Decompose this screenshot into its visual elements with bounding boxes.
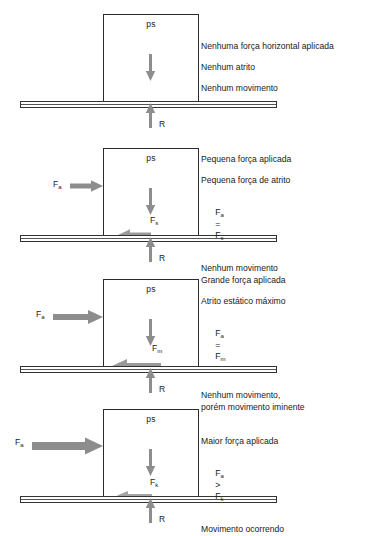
force-equation: Fa = Fm [201, 317, 373, 374]
equation-operator: = [215, 219, 220, 229]
equation-left-symbol: F [215, 468, 220, 478]
equation-left-symbol: F [215, 207, 220, 217]
force-equation: Fa > Fk [201, 457, 373, 514]
note-line: Movimento ocorrendo [201, 524, 373, 535]
equation-left-subscript: a [221, 333, 224, 339]
friction-force-label: Fk [150, 477, 158, 487]
friction-force-label: Fm [152, 343, 162, 353]
equation-right-symbol: F [215, 491, 220, 501]
friction-force-subscript: k [155, 482, 158, 488]
friction-panel-max-static: ps Fa Fm R Grande força aplicada Atrito … [0, 265, 374, 399]
block-label: ps [104, 284, 198, 294]
normal-force-arrow [144, 103, 157, 129]
equation-right-subscript: k [221, 496, 224, 502]
note-line: Atrito estático máximo [201, 296, 373, 307]
normal-force-arrow [144, 237, 157, 263]
block-label: ps [104, 19, 198, 29]
friction-force-subscript: m [157, 348, 162, 354]
friction-force-subscript: s [155, 220, 158, 226]
notes-column: Pequena força aplicada Pequena força de … [201, 154, 373, 274]
equation-right-subscript: m [221, 356, 226, 362]
applied-force-subscript: a [41, 314, 44, 320]
weight-arrow [144, 188, 157, 216]
note-line: Grande força aplicada [201, 275, 373, 286]
notes-column: Maior força aplicada Fa > Fk Movimento o… [201, 436, 373, 535]
applied-force-arrow [70, 179, 104, 193]
applied-force-arrow [53, 309, 104, 325]
weight-arrow [144, 54, 157, 82]
equation-operator: > [215, 480, 220, 490]
note-line: Nenhum atrito [201, 62, 373, 73]
applied-force-arrow [32, 436, 104, 456]
equation-right-symbol: F [215, 230, 220, 240]
normal-force-label: R [159, 253, 165, 263]
friction-panel-small-force: ps Fa Fs R Pequena força aplicada Pequen… [0, 134, 374, 268]
friction-panel-no-force: ps R Nenhuma força horizontal aplicada N… [0, 0, 374, 134]
normal-force-label: R [159, 384, 165, 394]
normal-force-arrow [144, 498, 157, 524]
note-line: Pequena força aplicada [201, 154, 373, 165]
equation-left-subscript: a [221, 212, 224, 218]
equation-right-symbol: F [215, 351, 220, 361]
block-label: ps [104, 414, 198, 424]
equation-left-symbol: F [215, 328, 220, 338]
force-equation: Fa = Fs [201, 196, 373, 253]
equation-right-subscript: s [221, 235, 224, 241]
notes-column: Nenhuma força horizontal aplicada Nenhum… [201, 41, 373, 94]
weight-arrow [144, 449, 157, 477]
applied-force-subscript: a [20, 442, 23, 448]
applied-force-label: Fa [53, 179, 62, 189]
note-line: Nenhum movimento [201, 83, 373, 94]
equation-left-subscript: a [221, 473, 224, 479]
equation-operator: = [215, 340, 220, 350]
note-line: Pequena força de atrito [201, 175, 373, 186]
block-label: ps [104, 153, 198, 163]
friction-panel-motion: ps Fa Fk R Maior força aplicada Fa > [0, 395, 374, 529]
note-line: Nenhuma força horizontal aplicada [201, 41, 373, 52]
notes-column: Grande força aplicada Atrito estático má… [201, 275, 373, 413]
applied-force-label: Fa [36, 309, 45, 319]
note-line: Maior força aplicada [201, 436, 373, 447]
normal-force-label: R [159, 119, 165, 129]
normal-force-label: R [159, 514, 165, 524]
friction-force-label: Fs [150, 215, 158, 225]
applied-force-subscript: a [58, 184, 61, 190]
normal-force-arrow [144, 368, 157, 394]
applied-force-label: Fa [15, 437, 24, 447]
